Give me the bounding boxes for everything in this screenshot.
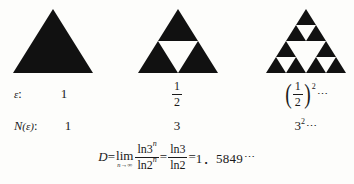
count-function-argument: (ε) [22,120,34,132]
fraction-denominator: 2 [172,96,182,109]
parenthesized-fraction-power: (12)2⋯ [284,80,329,109]
exponent: 2 [312,82,316,91]
count-value-0: 1 [46,112,90,140]
epsilon-value-0: 1 [42,80,86,108]
numerator-exponent: n [153,139,157,148]
equation-fraction-1-denominator: ln2n [135,159,158,172]
fractal-dimension-figure: ε: 1 1 2 (12)2⋯ N(ε): 1 3 [0,0,354,184]
sierpinski-level-1-triangle [138,9,218,73]
equation-result-ellipsis: ⋯ [244,151,256,164]
count-colon: : [34,119,37,133]
denominator-base: ln2 [137,158,152,172]
equation-fraction-1-numerator: ln3n [135,143,158,156]
equation-fraction-2: ln3ln2 [168,143,187,172]
count-value-2: 32⋯ [266,112,346,140]
equation-lhs: D [98,149,107,165]
fraction-one-half: 1 2 [172,80,182,108]
fraction-denominator: 2 [293,96,303,109]
equation-fraction-2-denominator: ln2 [168,159,187,172]
denominator-exponent: n [153,155,157,164]
limit-operator-label: lim [116,149,133,162]
epsilon-row: ε: 1 1 2 (12)2⋯ [0,80,354,110]
count-row-label: N(ε): [14,112,38,140]
left-paren: ( [285,83,291,105]
sierpinski-triangle-row [0,0,354,78]
count-value-0-text: 1 [65,118,72,133]
ellipsis: ⋯ [317,88,329,100]
equation-equals-3: = [188,149,195,165]
equation-result: 1．5849 [196,148,243,167]
equation-inner: D=limn→∞ln3nln2n=ln3ln2=1．5849⋯ [98,143,255,172]
fraction-numerator: 1 [172,80,182,93]
limit-operator: limn→∞ [116,149,133,169]
count-value-1-text: 3 [174,118,181,133]
count-value-2-exponent: 2 [301,117,305,126]
equation-equals-1: = [108,149,115,165]
epsilon-value-2: (12)2⋯ [266,80,346,108]
epsilon-colon: : [18,87,21,101]
sierpinski-level-2-triangle [266,9,346,73]
epsilon-row-label: ε: [14,80,22,108]
fraction-numerator: 1 [293,80,303,93]
epsilon-value-0-text: 1 [61,86,68,101]
dimension-equation: D=limn→∞ln3nln2n=ln3ln2=1．5849⋯ [0,143,354,181]
ellipsis: ⋯ [306,120,318,132]
count-value-1: 3 [150,112,204,140]
count-row: N(ε): 1 3 32⋯ [0,112,354,142]
equation-fraction-2-numerator: ln3 [168,143,187,156]
limit-subscript: n→∞ [116,162,133,169]
equation-equals-2: = [160,149,167,165]
right-paren: ) [304,83,310,105]
numerator-base: ln3 [137,142,152,156]
equation-fraction-1: ln3nln2n [135,143,158,172]
epsilon-value-1: 1 2 [150,80,204,108]
sierpinski-level-0-triangle [13,9,93,73]
fraction-one-half-squared: 12 [293,80,303,108]
